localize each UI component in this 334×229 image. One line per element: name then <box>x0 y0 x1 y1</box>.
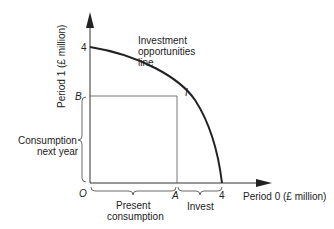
curve-label-line3: line <box>138 57 154 68</box>
present-consumption-line2: consumption <box>107 211 164 222</box>
origin-label: O <box>79 188 87 199</box>
brace-consumption-next-year <box>78 97 86 182</box>
point-a-label: A <box>172 190 179 201</box>
y-axis-label: Period 1 (£ million) <box>56 25 67 108</box>
curve-label-line1: Investment <box>138 35 187 46</box>
point-b-label: B <box>75 91 82 102</box>
investment-opportunities-curve <box>90 47 222 183</box>
y-axis-arrow-icon <box>86 12 94 28</box>
y-tick-4: 4 <box>81 42 87 53</box>
consumption-next-line1: Consumption <box>18 135 77 146</box>
brace-present-consumption <box>91 187 176 195</box>
present-consumption-line1: Present <box>116 200 150 211</box>
x-axis-arrow-icon <box>256 179 272 187</box>
x-axis-label: Period 0 (£ million) <box>243 191 326 202</box>
brace-invest <box>178 187 222 195</box>
curve-label-line2: opportunities <box>138 46 195 57</box>
point-i-label: I <box>185 87 188 98</box>
x-tick-4: 4 <box>219 190 225 201</box>
invest-label: Invest <box>187 201 214 212</box>
consumption-next-line2: next year <box>37 146 78 157</box>
